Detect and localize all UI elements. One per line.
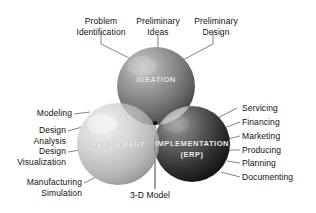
callout-right-marketing: Marketing <box>242 131 280 142</box>
callout-right-planning: Planning <box>242 158 276 169</box>
highlight-implementation <box>163 115 189 133</box>
callout-right-documenting: Documenting <box>242 172 293 183</box>
intersection-point <box>153 121 157 125</box>
callout-right-producing: Producing <box>242 145 281 156</box>
sphere-label-ideation: IDEATION <box>116 75 196 84</box>
callout-top-preliminary-design: Preliminary Design <box>179 16 253 37</box>
callout-left-design-analysis: Design Analysis <box>2 125 66 146</box>
label-3d-model: 3-D Model <box>130 190 170 201</box>
diagram-canvas: Problem Identification Preliminary Ideas… <box>0 0 316 213</box>
highlight-ideation <box>127 56 157 76</box>
callout-right-servicing: Servicing <box>242 103 278 114</box>
callout-left-manufacturing-simulation: Manufacturing Simulation <box>2 177 82 198</box>
callout-left-modeling: Modeling <box>2 108 72 119</box>
sphere-label-implementation-erp: (ERP) <box>152 150 232 159</box>
sphere-label-implementation: IMPLEMENTATION <box>152 139 232 148</box>
callout-left-design-visualization: Design Visualization <box>2 146 66 167</box>
callout-right-financing: Financing <box>242 117 280 128</box>
highlight-refinement <box>87 114 117 134</box>
sphere-label-refinement: REFINEMENT <box>78 140 158 149</box>
